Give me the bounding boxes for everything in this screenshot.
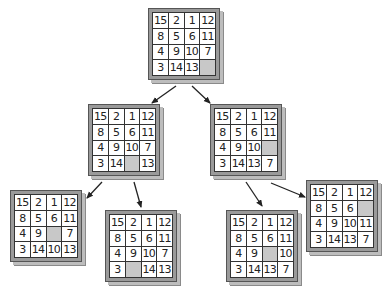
tile: 10 bbox=[343, 217, 358, 232]
tile: 3 bbox=[15, 242, 30, 257]
tile: 10 bbox=[125, 141, 140, 156]
tile: 7 bbox=[157, 247, 172, 262]
tile: 5 bbox=[327, 201, 342, 216]
puzzle-board-root: 152112856114910731413 bbox=[148, 8, 220, 80]
arrow-icon bbox=[152, 86, 176, 103]
tile: 6 bbox=[47, 211, 62, 226]
arrow-icon bbox=[87, 182, 102, 198]
tile: 5 bbox=[231, 125, 246, 140]
tile: 14 bbox=[247, 262, 262, 277]
blank-tile bbox=[358, 201, 373, 216]
tile: 14 bbox=[231, 156, 246, 171]
tile: 13 bbox=[263, 262, 278, 277]
tile: 8 bbox=[93, 125, 108, 140]
tile: 9 bbox=[169, 45, 184, 60]
tile: 14 bbox=[169, 60, 184, 75]
tile: 11 bbox=[262, 125, 277, 140]
tile: 14 bbox=[327, 232, 342, 247]
tile: 1 bbox=[185, 13, 200, 28]
tile: 15 bbox=[15, 195, 30, 210]
tile: 10 bbox=[247, 141, 262, 156]
tile: 2 bbox=[327, 185, 342, 200]
tile: 7 bbox=[200, 45, 215, 60]
tile: 8 bbox=[15, 211, 30, 226]
tile: 9 bbox=[247, 247, 262, 262]
puzzle-board-l2-a: 152112856114973141013 bbox=[10, 190, 82, 262]
blank-tile bbox=[263, 247, 278, 262]
tile: 13 bbox=[185, 60, 200, 75]
tile: 11 bbox=[157, 231, 172, 246]
tile: 15 bbox=[93, 109, 108, 124]
tile: 6 bbox=[125, 125, 140, 140]
tile-grid: 152112856491011314137 bbox=[310, 184, 374, 248]
tile: 9 bbox=[126, 247, 141, 262]
tile: 15 bbox=[153, 13, 168, 28]
tile: 6 bbox=[185, 29, 200, 44]
tile: 12 bbox=[278, 215, 293, 230]
blank-tile bbox=[200, 60, 215, 75]
tile: 11 bbox=[140, 125, 155, 140]
tile: 10 bbox=[278, 247, 293, 262]
tile: 6 bbox=[343, 201, 358, 216]
tile: 15 bbox=[311, 185, 326, 200]
puzzle-board-l1-left: 152112856114910731413 bbox=[88, 104, 160, 176]
tile: 5 bbox=[169, 29, 184, 44]
tile: 8 bbox=[110, 231, 125, 246]
tile: 1 bbox=[125, 109, 140, 124]
tile: 3 bbox=[110, 262, 125, 277]
tile: 9 bbox=[31, 227, 46, 242]
arrow-icon bbox=[192, 86, 210, 103]
tile: 15 bbox=[231, 215, 246, 230]
tile: 9 bbox=[109, 141, 124, 156]
puzzle-board-l1-right: 152112856114910314137 bbox=[210, 104, 282, 176]
tile: 12 bbox=[262, 109, 277, 124]
tile: 1 bbox=[343, 185, 358, 200]
tile: 7 bbox=[140, 141, 155, 156]
tile: 6 bbox=[247, 125, 262, 140]
tile: 3 bbox=[215, 156, 230, 171]
tile: 13 bbox=[343, 232, 358, 247]
tile: 9 bbox=[327, 217, 342, 232]
tile: 4 bbox=[153, 45, 168, 60]
tile: 11 bbox=[358, 217, 373, 232]
tile: 2 bbox=[169, 13, 184, 28]
puzzle-board-l2-d: 152112856491011314137 bbox=[306, 180, 378, 252]
tile: 5 bbox=[31, 211, 46, 226]
blank-tile bbox=[262, 141, 277, 156]
tile: 7 bbox=[278, 262, 293, 277]
tile: 8 bbox=[231, 231, 246, 246]
tile: 4 bbox=[215, 141, 230, 156]
tile: 6 bbox=[263, 231, 278, 246]
blank-tile bbox=[47, 227, 62, 242]
tile-grid: 152112856114910731413 bbox=[109, 214, 173, 278]
arrow-icon bbox=[134, 182, 141, 207]
tile-grid: 152112856114910314137 bbox=[214, 108, 278, 172]
tile: 2 bbox=[109, 109, 124, 124]
tile: 13 bbox=[62, 242, 77, 257]
tile: 13 bbox=[247, 156, 262, 171]
tile: 11 bbox=[200, 29, 215, 44]
tile: 10 bbox=[142, 247, 157, 262]
tile: 10 bbox=[185, 45, 200, 60]
tile: 1 bbox=[142, 215, 157, 230]
tile: 4 bbox=[93, 141, 108, 156]
tile: 11 bbox=[278, 231, 293, 246]
tile: 4 bbox=[15, 227, 30, 242]
tile-grid: 152112856114910731413 bbox=[152, 12, 216, 76]
tile: 14 bbox=[142, 262, 157, 277]
tile: 4 bbox=[231, 247, 246, 262]
tile-grid: 152112856114910731413 bbox=[92, 108, 156, 172]
tile: 7 bbox=[62, 227, 77, 242]
tile: 6 bbox=[142, 231, 157, 246]
tile: 4 bbox=[110, 247, 125, 262]
tile: 2 bbox=[247, 215, 262, 230]
tile: 7 bbox=[262, 156, 277, 171]
tile: 5 bbox=[247, 231, 262, 246]
puzzle-board-l2-b: 152112856114910731413 bbox=[105, 210, 177, 282]
tile: 1 bbox=[247, 109, 262, 124]
tile: 5 bbox=[126, 231, 141, 246]
tile: 15 bbox=[215, 109, 230, 124]
tile: 3 bbox=[93, 156, 108, 171]
tile: 7 bbox=[358, 232, 373, 247]
arrow-icon bbox=[246, 182, 262, 206]
